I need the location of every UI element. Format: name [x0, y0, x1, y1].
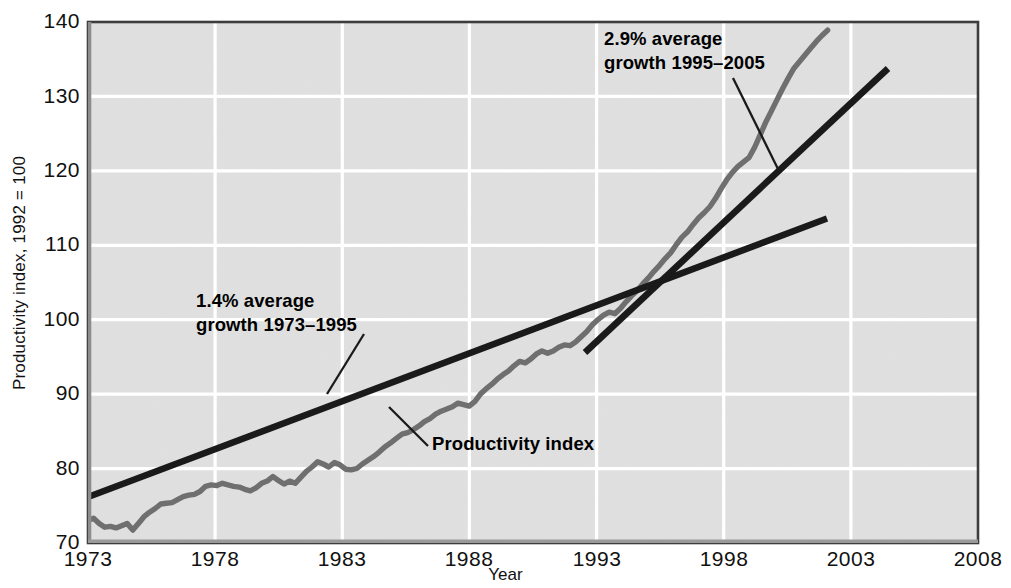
- y-tick-label-120: 120: [34, 158, 80, 182]
- x-axis-title: Year: [0, 565, 1011, 585]
- annotation-slow-growth-line2: growth 1973–1995: [196, 313, 357, 337]
- plot-background-texture: [88, 22, 978, 543]
- annotation-fast-growth-line2: growth 1995–2005: [604, 51, 765, 75]
- annotation-series-label: Productivity index: [432, 432, 594, 456]
- y-tick-label-90: 90: [34, 381, 80, 405]
- y-tick-label-140: 140: [34, 9, 80, 33]
- y-tick-label-80: 80: [34, 456, 80, 480]
- chart-figure: Productivity index, 1992 = 100 70 80 90 …: [0, 0, 1011, 588]
- annotation-slow-growth: 1.4% average growth 1973–1995: [196, 289, 357, 338]
- annotation-slow-growth-line1: 1.4% average: [196, 289, 357, 313]
- annotation-fast-growth: 2.9% average growth 1995–2005: [604, 27, 765, 76]
- y-axis-title: Productivity index, 1992 = 100: [10, 155, 30, 389]
- annotation-fast-growth-line1: 2.9% average: [604, 27, 765, 51]
- y-tick-label-100: 100: [34, 307, 80, 331]
- y-tick-label-110: 110: [34, 232, 80, 256]
- y-tick-label-130: 130: [34, 84, 80, 108]
- productivity-chart: [0, 0, 1011, 588]
